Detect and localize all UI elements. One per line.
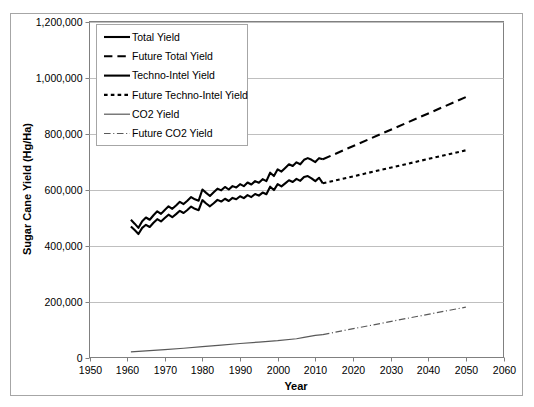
legend-label: CO2 Yield <box>132 108 179 120</box>
legend-label: Total Yield <box>132 31 180 43</box>
y-tick-label: 1,200,000 <box>36 16 83 28</box>
x-tick-label: 1960 <box>116 364 140 376</box>
canvas-background <box>0 0 534 407</box>
y-axis-title: Sugar Cane Yield (Hg/Ha) <box>21 123 33 255</box>
y-tick-label: 0 <box>77 352 83 364</box>
x-tick-label: 2000 <box>267 364 291 376</box>
y-tick-label: 1,000,000 <box>36 72 83 84</box>
x-tick-label: 2030 <box>380 364 404 376</box>
x-tick-label: 2010 <box>304 364 328 376</box>
x-tick-label: 1980 <box>191 364 215 376</box>
legend-label: Future CO2 Yield <box>132 127 213 139</box>
legend-label: Future Total Yield <box>132 50 213 62</box>
x-tick-label: 1970 <box>154 364 178 376</box>
y-tick-label: 200,000 <box>45 296 83 308</box>
y-tick-label: 400,000 <box>45 240 83 252</box>
chart-legend: Total YieldFuture Total YieldTechno-Inte… <box>97 25 249 146</box>
x-tick-label: 2060 <box>493 364 517 376</box>
chart-container: 0200,000400,000600,000800,0001,000,0001,… <box>0 0 534 407</box>
x-axis-title: Year <box>284 380 308 392</box>
x-tick-label: 1950 <box>79 364 103 376</box>
x-tick-label: 2040 <box>417 364 441 376</box>
legend-label: Techno-Intel Yield <box>132 69 215 81</box>
y-tick-label: 600,000 <box>45 184 83 196</box>
sugar-cane-yield-line-chart: 0200,000400,000600,000800,0001,000,0001,… <box>0 0 534 407</box>
x-tick-label: 2020 <box>342 364 366 376</box>
y-tick-label: 800,000 <box>45 128 83 140</box>
x-tick-label: 2050 <box>455 364 479 376</box>
x-tick-label: 1990 <box>229 364 253 376</box>
legend-label: Future Techno-Intel Yield <box>132 89 248 101</box>
